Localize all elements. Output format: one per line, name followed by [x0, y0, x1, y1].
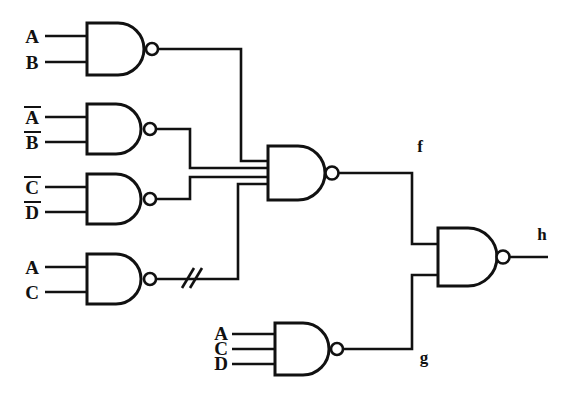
logic-circuit-svg: A B A B C D A C f — [0, 0, 577, 411]
wire-g-to-gate-h — [343, 275, 438, 349]
output-label-g: g — [420, 348, 429, 367]
input-label-b1: B — [26, 52, 39, 73]
input-label-d-bar: D — [25, 202, 39, 223]
nand-gate-h[interactable] — [438, 228, 510, 286]
nand-gate-f-body — [268, 146, 325, 200]
wire-f-to-gate-h — [339, 173, 439, 244]
nand-gate-f-bubble — [326, 167, 339, 180]
input-label-c-bar: C — [25, 177, 39, 198]
nand-gate-f[interactable] — [268, 146, 339, 200]
nand-gate-acd-body — [275, 323, 329, 375]
nand-gate-h-body — [438, 228, 497, 286]
input-label-c2: C — [25, 282, 39, 303]
wire-gate-c-bar-d-bar-to-gate-f — [156, 177, 268, 199]
circuit-diagram-canvas: A B A B C D A C f — [0, 0, 577, 411]
input-label-d3: D — [214, 353, 228, 374]
nand-gate-ac-body — [87, 254, 141, 304]
input-label-a-bar: A — [25, 107, 39, 128]
input-label-a1: A — [25, 26, 39, 47]
nand-gate-ac[interactable] — [45, 254, 156, 304]
nand-gate-c-bar-d-bar-body — [87, 174, 141, 224]
input-label-a2: A — [25, 257, 39, 278]
nand-gate-ac-bubble — [144, 273, 156, 285]
nand-gate-ab-bubble — [146, 43, 158, 55]
nand-gate-acd-bubble — [331, 343, 343, 355]
nand-gate-c-bar-d-bar[interactable] — [45, 174, 156, 224]
nand-gate-ab-body — [87, 23, 144, 75]
nand-gate-acd[interactable] — [232, 323, 343, 375]
nand-gate-ab[interactable] — [45, 23, 158, 75]
wire-gate-ab-to-gate-f — [158, 49, 268, 161]
nand-gate-a-bar-b-bar-body — [87, 104, 141, 154]
nand-gate-h-bubble — [497, 251, 510, 264]
input-label-b-bar: B — [26, 132, 39, 153]
output-label-f: f — [417, 137, 423, 156]
nand-gate-a-bar-b-bar[interactable] — [45, 104, 156, 154]
output-label-h: h — [537, 225, 547, 244]
nand-gate-c-bar-d-bar-bubble — [144, 193, 156, 205]
nand-gate-a-bar-b-bar-bubble — [144, 123, 156, 135]
